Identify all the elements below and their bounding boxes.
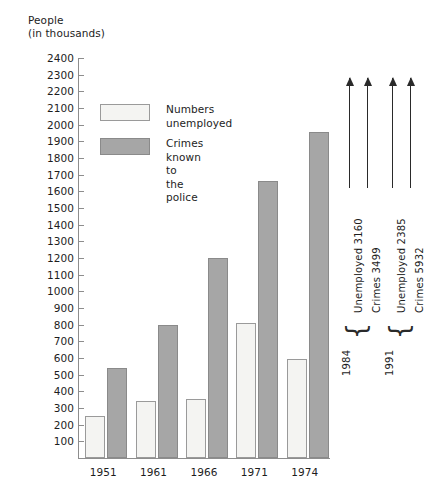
annotation-brace: { xyxy=(343,323,369,340)
y-axis-tick-label: 1800 xyxy=(0,152,74,164)
legend-swatch-crimes xyxy=(100,138,150,155)
bar-unemployed-1961 xyxy=(136,401,156,458)
bar-unemployed-1974 xyxy=(287,359,307,458)
legend-label: Crimes known to the police xyxy=(166,137,203,205)
annotation-arrow-up-icon xyxy=(392,78,393,188)
x-axis-label-1974: 1974 xyxy=(280,466,330,478)
y-axis-tick-label: 1300 xyxy=(0,235,74,247)
x-axis-label-1966: 1966 xyxy=(179,466,229,478)
x-axis-label-1971: 1971 xyxy=(229,466,279,478)
y-axis-tick-label: 500 xyxy=(0,369,74,381)
y-axis-tick-label: 400 xyxy=(0,385,74,397)
y-axis-tick-label: 1400 xyxy=(0,219,74,231)
y-axis-tick-label: 1700 xyxy=(0,169,74,181)
annotation-brace: { xyxy=(386,323,412,340)
y-axis-tick-label: 1100 xyxy=(0,269,74,281)
x-axis-label-1951: 1951 xyxy=(78,466,128,478)
annotation-label: Crimes 5932 xyxy=(414,247,425,313)
bar-unemployed-1971 xyxy=(236,323,256,458)
y-axis-tick-label: 1200 xyxy=(0,252,74,264)
annotation-arrow-up-icon xyxy=(410,78,411,188)
annotation-label: Crimes 3499 xyxy=(371,247,382,313)
bar-crimes-1971 xyxy=(258,181,278,458)
x-axis-label-1961: 1961 xyxy=(128,466,178,478)
y-axis-tick-label: 2000 xyxy=(0,119,74,131)
y-axis-tick-label: 300 xyxy=(0,402,74,414)
annotation-year-1991: 1991 xyxy=(384,350,395,376)
legend-swatch-unemployed xyxy=(100,104,150,121)
y-axis-tick-label: 2300 xyxy=(0,69,74,81)
annotation-year-1984: 1984 xyxy=(341,350,352,376)
bar-crimes-1951 xyxy=(107,368,127,458)
annotation-arrow-up-icon xyxy=(349,78,350,188)
y-axis-tick-label: 2400 xyxy=(0,52,74,64)
y-axis-tick-label: 1000 xyxy=(0,285,74,297)
y-axis-tick-label: 2100 xyxy=(0,102,74,114)
bar-crimes-1961 xyxy=(158,325,178,458)
y-axis-title-line1: People xyxy=(28,14,105,27)
y-axis-tick-label: 1900 xyxy=(0,135,74,147)
annotation-label: Unemployed 3160 xyxy=(353,218,364,313)
y-axis-tick-label: 2200 xyxy=(0,85,74,97)
bar-chart: People (in thousands) 240023002200210020… xyxy=(0,0,439,499)
y-axis-tick-label: 1500 xyxy=(0,202,74,214)
y-axis-tick-label: 1600 xyxy=(0,185,74,197)
bar-unemployed-1951 xyxy=(85,416,105,459)
y-axis-tick-label: 700 xyxy=(0,335,74,347)
y-axis-tick-label: 100 xyxy=(0,435,74,447)
y-axis-tick-label: 900 xyxy=(0,302,74,314)
legend-label: Numbers unemployed xyxy=(166,103,232,130)
future-years-annotations: Unemployed 3160Crimes 3499{1984Unemploye… xyxy=(336,78,439,378)
y-axis-tick-label: 200 xyxy=(0,419,74,431)
bar-crimes-1966 xyxy=(208,258,228,458)
y-axis-title-line2: (in thousands) xyxy=(28,27,105,40)
y-axis-tick-label: 600 xyxy=(0,352,74,364)
y-axis-title: People (in thousands) xyxy=(28,14,105,40)
bar-crimes-1974 xyxy=(309,132,329,458)
y-axis-tick-label: 800 xyxy=(0,319,74,331)
bar-unemployed-1966 xyxy=(186,399,206,458)
annotation-label: Unemployed 2385 xyxy=(396,218,407,313)
annotation-arrow-up-icon xyxy=(367,78,368,188)
x-axis-line xyxy=(78,458,330,459)
